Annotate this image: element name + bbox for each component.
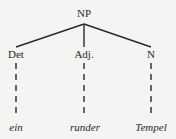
branch-det bbox=[16, 24, 84, 47]
node-n: N bbox=[147, 48, 155, 60]
word-ein: ein bbox=[9, 121, 23, 133]
word-runder: runder bbox=[70, 121, 101, 133]
tree-branches bbox=[16, 24, 151, 47]
node-adj: Adj. bbox=[74, 48, 94, 60]
word-tempel: Tempel bbox=[135, 121, 166, 133]
syntax-tree: NP Det Adj. N ein runder Tempel bbox=[0, 0, 176, 139]
node-det: Det bbox=[8, 48, 24, 60]
lexical-links bbox=[16, 63, 151, 117]
node-np: NP bbox=[77, 7, 91, 19]
branch-n bbox=[84, 24, 151, 47]
